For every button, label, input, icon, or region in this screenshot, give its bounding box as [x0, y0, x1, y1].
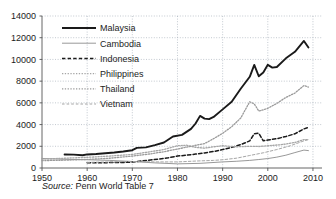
- legend-label-malaysia: Malaysia: [100, 23, 136, 33]
- y-axis-label-2000: 2000: [16, 141, 36, 151]
- y-axis-label-0: 0: [31, 163, 36, 173]
- line-chart-figure: 02000400060008000100001200014000 1950196…: [0, 0, 336, 199]
- gridlines-horizontal: [42, 16, 322, 146]
- chart-legend: MalaysiaCambodiaIndonesiaPhilippinesThai…: [62, 23, 144, 109]
- legend-label-indonesia: Indonesia: [100, 54, 139, 64]
- y-axis: [40, 16, 43, 168]
- x-axis-label-1980: 1980: [167, 173, 187, 183]
- y-axis-label-12000: 12000: [11, 33, 36, 43]
- legend-label-philippines: Philippines: [100, 69, 144, 79]
- x-axis-label-2000: 2000: [258, 173, 278, 183]
- source-label: Source:: [42, 181, 73, 191]
- legend-label-thailand: Thailand: [100, 84, 135, 94]
- y-axis-label-6000: 6000: [16, 98, 36, 108]
- legend-label-cambodia: Cambodia: [100, 39, 141, 49]
- legend-label-vietnam: Vietnam: [100, 99, 133, 109]
- source-note: Source: Penn World Table 7: [42, 181, 154, 191]
- x-axis-label-1990: 1990: [213, 173, 233, 183]
- y-axis-tick-labels: 02000400060008000100001200014000: [11, 11, 36, 173]
- y-axis-label-4000: 4000: [16, 120, 36, 130]
- y-axis-label-8000: 8000: [16, 76, 36, 86]
- y-axis-label-10000: 10000: [11, 55, 36, 65]
- y-axis-label-14000: 14000: [11, 11, 36, 21]
- series-line-thailand: [42, 85, 308, 160]
- x-axis: [42, 168, 322, 171]
- chart-canvas: 02000400060008000100001200014000 1950196…: [0, 0, 336, 199]
- source-text: Penn World Table 7: [76, 181, 154, 191]
- x-axis-label-2010: 2010: [303, 173, 323, 183]
